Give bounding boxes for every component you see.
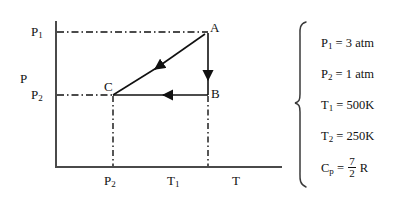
cp-denominator: 2 (348, 168, 356, 179)
cp-unit: R (360, 161, 368, 175)
process-a-to-c (155, 34, 205, 69)
y-axis-label: P (20, 72, 27, 85)
process-a-to-c-tail (113, 67, 158, 95)
x-tick-label-p2: P2 (104, 174, 116, 189)
point-label-a: A (210, 21, 219, 34)
x-axis-label: T (232, 174, 240, 187)
legend-brace (295, 22, 306, 187)
pt-diagram-figure: P1 P P2 A B C P2 T1 T P1 = 3 atm P2 = 1 … (0, 0, 409, 203)
point-label-b: B (211, 87, 220, 100)
y-tick-label-p2: P2 (31, 88, 43, 103)
legend-item-t1: T1 = 500K (321, 99, 374, 113)
cp-fraction: 7 2 (348, 156, 356, 179)
legend-item-cp: Cp = 7 2 R (321, 157, 368, 180)
legend-item-p1: P1 = 3 atm (321, 37, 374, 51)
x-tick-label-t1: T1 (167, 174, 179, 189)
y-tick-label-p1: P1 (31, 25, 43, 40)
legend-item-p2: P2 = 1 atm (321, 68, 374, 82)
point-label-c: C (104, 80, 113, 93)
legend-item-t2: T2 = 250K (321, 130, 374, 144)
